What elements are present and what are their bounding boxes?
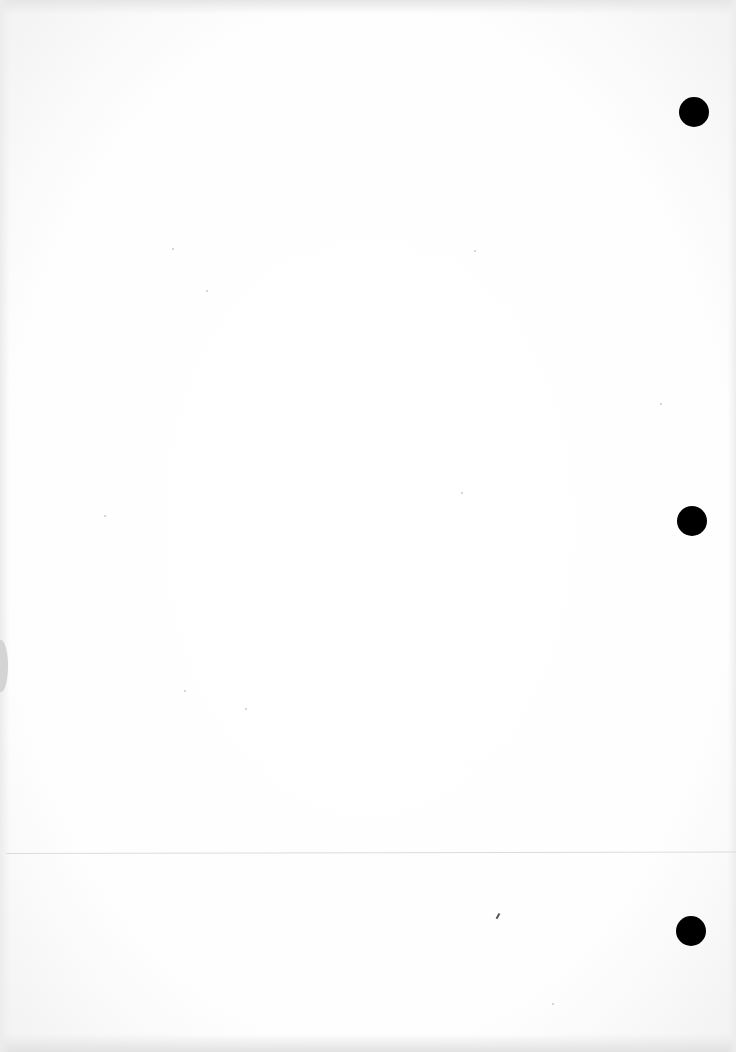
scan-speck xyxy=(461,492,463,494)
scan-speck xyxy=(104,515,106,517)
page-edge-top xyxy=(0,0,736,14)
scan-speck xyxy=(660,403,662,405)
page-edge-right xyxy=(728,0,736,1052)
scanned-page xyxy=(0,0,736,1052)
scan-speck xyxy=(172,248,174,250)
page-edge-bottom xyxy=(0,1034,736,1052)
punch-hole xyxy=(679,97,709,127)
punch-hole xyxy=(676,916,706,946)
page-edge-left xyxy=(0,0,10,1052)
scan-speck xyxy=(474,250,476,252)
fold-line xyxy=(6,851,736,854)
scan-speck xyxy=(184,690,186,692)
scan-speck xyxy=(552,1003,554,1005)
pen-mark xyxy=(496,913,500,919)
scan-speck xyxy=(206,290,208,292)
scan-speck xyxy=(245,708,247,710)
punch-hole xyxy=(677,506,707,536)
